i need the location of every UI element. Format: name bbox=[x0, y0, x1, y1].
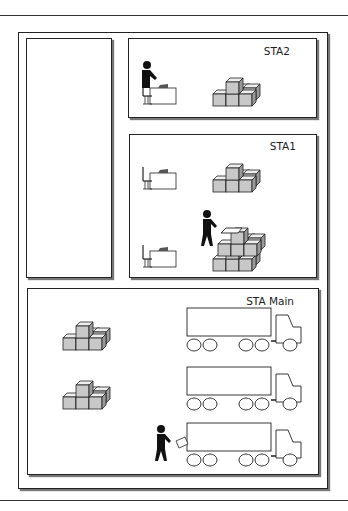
illustrations bbox=[0, 0, 348, 511]
worker-at-desk-icon bbox=[142, 61, 176, 104]
box-stack-icon bbox=[63, 381, 110, 409]
truck-icon bbox=[187, 423, 301, 466]
worker-loading-icon bbox=[155, 425, 171, 461]
truck-icon bbox=[187, 308, 301, 351]
desk-icon bbox=[143, 245, 176, 267]
box-stack-icon bbox=[213, 78, 260, 106]
truck-icon bbox=[187, 367, 301, 410]
worker-packing-icon bbox=[201, 210, 217, 246]
box-stack-icon bbox=[63, 322, 110, 350]
desk-icon bbox=[143, 167, 176, 189]
box-stack-icon bbox=[213, 164, 260, 192]
